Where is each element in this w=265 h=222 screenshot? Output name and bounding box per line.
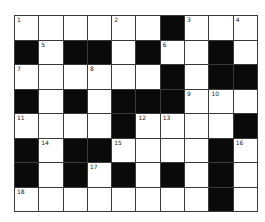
black-square: [209, 188, 232, 212]
clue-number: 16: [236, 140, 244, 146]
black-square: [161, 16, 184, 40]
black-square: [112, 90, 135, 114]
clue-number: 1: [17, 17, 21, 23]
clue-number: 8: [90, 66, 94, 72]
answer-cell[interactable]: [185, 163, 208, 187]
black-square: [15, 163, 38, 187]
black-square: [112, 163, 135, 187]
answer-cell[interactable]: 4: [234, 16, 257, 40]
black-square: [209, 139, 232, 163]
black-square: [209, 163, 232, 187]
crossword-grid: 123456789101112131415161718: [14, 15, 258, 212]
clue-number: 6: [163, 42, 167, 48]
black-square: [234, 65, 257, 89]
answer-cell[interactable]: [185, 41, 208, 65]
answer-cell[interactable]: 8: [88, 65, 111, 89]
clue-number: 9: [187, 91, 191, 97]
clue-number: 12: [138, 115, 146, 121]
black-square: [161, 163, 184, 187]
answer-cell[interactable]: [185, 114, 208, 138]
black-square: [64, 41, 87, 65]
clue-number: 11: [17, 115, 25, 121]
answer-cell[interactable]: [234, 41, 257, 65]
answer-cell[interactable]: [39, 114, 62, 138]
black-square: [161, 65, 184, 89]
answer-cell[interactable]: [161, 139, 184, 163]
answer-cell[interactable]: 18: [15, 188, 38, 212]
clue-number: 5: [41, 42, 45, 48]
answer-cell[interactable]: 14: [39, 139, 62, 163]
black-square: [209, 65, 232, 89]
answer-cell[interactable]: [88, 188, 111, 212]
clue-number: 10: [211, 91, 219, 97]
answer-cell[interactable]: 17: [88, 163, 111, 187]
answer-cell[interactable]: [39, 163, 62, 187]
answer-cell[interactable]: [185, 139, 208, 163]
clue-number: 4: [236, 17, 240, 23]
black-square: [15, 139, 38, 163]
answer-cell[interactable]: 7: [15, 65, 38, 89]
black-square: [15, 90, 38, 114]
black-square: [136, 41, 159, 65]
answer-cell[interactable]: [234, 188, 257, 212]
black-square: [15, 41, 38, 65]
black-square: [64, 139, 87, 163]
clue-number: 2: [114, 17, 118, 23]
clue-number: 17: [90, 164, 98, 170]
answer-cell[interactable]: [88, 90, 111, 114]
answer-cell[interactable]: 6: [161, 41, 184, 65]
answer-cell[interactable]: [39, 65, 62, 89]
answer-cell[interactable]: [64, 65, 87, 89]
answer-cell[interactable]: [136, 139, 159, 163]
clue-number: 14: [41, 140, 49, 146]
black-square: [64, 163, 87, 187]
clue-number: 13: [163, 115, 171, 121]
answer-cell[interactable]: [161, 188, 184, 212]
black-square: [64, 90, 87, 114]
answer-cell[interactable]: [39, 188, 62, 212]
answer-cell[interactable]: [234, 163, 257, 187]
black-square: [112, 114, 135, 138]
answer-cell[interactable]: [185, 188, 208, 212]
answer-cell[interactable]: [136, 188, 159, 212]
answer-cell[interactable]: 15: [112, 139, 135, 163]
clue-number: 3: [187, 17, 191, 23]
answer-cell[interactable]: [88, 16, 111, 40]
answer-cell[interactable]: [136, 163, 159, 187]
answer-cell[interactable]: 16: [234, 139, 257, 163]
answer-cell[interactable]: 10: [209, 90, 232, 114]
answer-cell[interactable]: 9: [185, 90, 208, 114]
answer-cell[interactable]: [185, 65, 208, 89]
answer-cell[interactable]: [209, 114, 232, 138]
black-square: [209, 41, 232, 65]
answer-cell[interactable]: 11: [15, 114, 38, 138]
answer-cell[interactable]: [39, 90, 62, 114]
answer-cell[interactable]: 2: [112, 16, 135, 40]
answer-cell[interactable]: [112, 188, 135, 212]
answer-cell[interactable]: [112, 65, 135, 89]
answer-cell[interactable]: [64, 16, 87, 40]
clue-number: 15: [114, 140, 122, 146]
answer-cell[interactable]: [39, 16, 62, 40]
black-square: [88, 41, 111, 65]
answer-cell[interactable]: 12: [136, 114, 159, 138]
answer-cell[interactable]: 5: [39, 41, 62, 65]
answer-cell[interactable]: [112, 41, 135, 65]
answer-cell[interactable]: [64, 188, 87, 212]
answer-cell[interactable]: [136, 16, 159, 40]
answer-cell[interactable]: 3: [185, 16, 208, 40]
answer-cell[interactable]: [88, 114, 111, 138]
answer-cell[interactable]: 1: [15, 16, 38, 40]
black-square: [136, 90, 159, 114]
black-square: [161, 90, 184, 114]
answer-cell[interactable]: [234, 90, 257, 114]
clue-number: 7: [17, 66, 21, 72]
answer-cell[interactable]: [64, 114, 87, 138]
black-square: [234, 114, 257, 138]
answer-cell[interactable]: [136, 65, 159, 89]
answer-cell[interactable]: 13: [161, 114, 184, 138]
answer-cell[interactable]: [209, 16, 232, 40]
black-square: [88, 139, 111, 163]
clue-number: 18: [17, 189, 25, 195]
